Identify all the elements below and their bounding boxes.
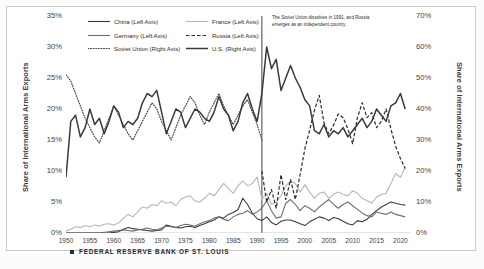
series-line	[66, 75, 262, 143]
x-tick: 1995	[268, 237, 294, 244]
x-tick: 2015	[364, 237, 390, 244]
y-tick-right: 0%	[416, 228, 448, 237]
legend-swatch-icon	[88, 32, 110, 39]
y-tick-right: 20%	[416, 166, 448, 175]
x-tick: 1980	[196, 237, 222, 244]
y-tick-left: 35%	[32, 11, 62, 20]
y-tick-left: 30%	[32, 42, 62, 51]
y-tick-left: 5%	[32, 197, 62, 206]
legend-item: France (Left Axis)	[186, 18, 284, 25]
x-tick: 2005	[316, 237, 342, 244]
legend-item: Soviet Union (Right Axis)	[88, 45, 186, 52]
y-tick-right: 30%	[416, 135, 448, 144]
legend-swatch-icon	[186, 45, 208, 52]
source-attribution: FEDERAL RESERVE BANK OF ST. LOUIS	[70, 248, 229, 255]
y-tick-left: 20%	[32, 104, 62, 113]
legend-label: Germany (Left Axis)	[114, 32, 167, 39]
legend-swatch-icon	[186, 32, 208, 39]
legend-label: France (Left Axis)	[212, 18, 259, 25]
chart-screenshot: Share of International Arms Exports Shar…	[0, 0, 484, 269]
series-line	[66, 167, 405, 231]
square-marker-icon	[70, 250, 74, 254]
x-tick: 1975	[172, 237, 198, 244]
legend-label: China (Left Axis)	[114, 18, 158, 25]
annotation-text: The Soviet Union dissolves in 1991, and …	[272, 15, 380, 28]
legend-swatch-icon	[186, 18, 208, 25]
legend-row: Soviet Union (Right Axis)U.S. (Right Axi…	[88, 45, 284, 52]
x-tick: 2010	[340, 237, 366, 244]
legend-item: China (Left Axis)	[88, 18, 186, 25]
legend-row: Germany (Left Axis)Russia (Left Axis)	[88, 32, 284, 39]
y-tick-right: 10%	[416, 197, 448, 206]
x-tick: 1970	[149, 237, 175, 244]
series-line	[66, 200, 405, 233]
chart-legend: China (Left Axis)France (Left Axis)Germa…	[88, 18, 284, 59]
x-tick: 1960	[101, 237, 127, 244]
y-tick-right: 60%	[416, 42, 448, 51]
legend-swatch-icon	[88, 18, 110, 25]
y-tick-left: 15%	[32, 135, 62, 144]
legend-item: U.S. (Right Axis)	[186, 45, 284, 52]
y-axis-label-left: Share of International Arms Exports	[18, 52, 32, 202]
legend-item: Russia (Left Axis)	[186, 32, 284, 39]
legend-row: China (Left Axis)France (Left Axis)	[88, 18, 284, 25]
x-tick: 1950	[53, 237, 79, 244]
legend-item: Germany (Left Axis)	[88, 32, 186, 39]
x-tick: 2000	[292, 237, 318, 244]
y-tick-right: 50%	[416, 73, 448, 82]
x-tick: 1955	[77, 237, 103, 244]
source-label: FEDERAL RESERVE BANK OF ST. LOUIS	[79, 248, 229, 255]
y-tick-right: 70%	[416, 11, 448, 20]
legend-label: U.S. (Right Axis)	[212, 45, 256, 52]
legend-label: Soviet Union (Right Axis)	[114, 45, 180, 52]
x-tick: 2020	[387, 237, 413, 244]
x-tick: 1990	[244, 237, 270, 244]
x-tick: 1965	[125, 237, 151, 244]
legend-swatch-icon	[88, 45, 110, 52]
y-tick-left: 0%	[32, 228, 62, 237]
y-tick-left: 10%	[32, 166, 62, 175]
y-axis-label-right: Share of International Arms Exports	[452, 52, 466, 202]
y-tick-right: 40%	[416, 104, 448, 113]
legend-label: Russia (Left Axis)	[212, 32, 259, 39]
y-tick-left: 25%	[32, 73, 62, 82]
x-tick: 1985	[220, 237, 246, 244]
